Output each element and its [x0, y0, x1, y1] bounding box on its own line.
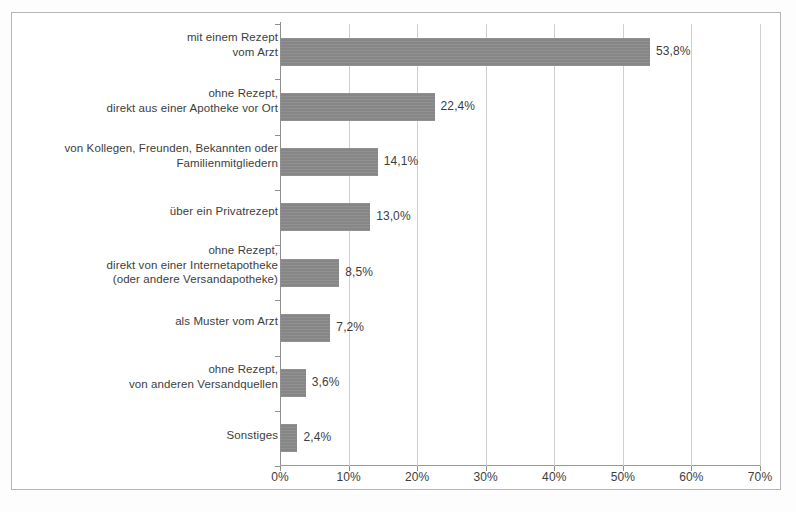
- bar-value-label: 14,1%: [384, 154, 419, 168]
- gridline: [349, 24, 350, 466]
- scanned-page: mit einem Rezept vom Arzt ohne Rezept, d…: [0, 0, 796, 512]
- category-tick: [275, 245, 280, 246]
- category-label: von Kollegen, Freunden, Bekannten oder F…: [6, 141, 278, 170]
- bar: [281, 148, 378, 176]
- plot-area: 53,8%22,4%14,1%13,0%8,5%7,2%3,6%2,4%: [280, 24, 760, 466]
- x-axis-tick-label: 40%: [542, 470, 566, 484]
- category-tick: [275, 135, 280, 136]
- category-tick: [275, 356, 280, 357]
- x-axis-tick-label: 70%: [748, 470, 772, 484]
- x-axis-tick-label: 0%: [271, 470, 289, 484]
- gridline: [486, 24, 487, 466]
- category-tick: [275, 466, 280, 467]
- bar: [281, 203, 370, 231]
- bar-value-label: 13,0%: [376, 209, 411, 223]
- category-label: ohne Rezept, von anderen Versandquellen: [6, 362, 278, 391]
- category-label: ohne Rezept, direkt von einer Internetap…: [6, 243, 278, 287]
- x-axis-line: [280, 465, 761, 466]
- category-tick: [275, 300, 280, 301]
- x-axis-tick-label: 20%: [405, 470, 429, 484]
- bar: [281, 38, 650, 66]
- bar: [281, 259, 339, 287]
- category-label: über ein Privatrezept: [6, 204, 278, 219]
- x-axis-tick-label: 50%: [611, 470, 635, 484]
- bar-chart: mit einem Rezept vom Arzt ohne Rezept, d…: [0, 0, 796, 512]
- gridline: [623, 24, 624, 466]
- category-label: Sonstiges: [6, 428, 278, 443]
- y-axis-line: [280, 22, 281, 466]
- category-tick: [275, 79, 280, 80]
- bar-value-label: 53,8%: [656, 44, 691, 58]
- bar-value-label: 3,6%: [312, 375, 340, 389]
- bar-value-label: 7,2%: [336, 320, 364, 334]
- bar: [281, 93, 435, 121]
- bar-value-label: 2,4%: [303, 430, 331, 444]
- gridline: [417, 24, 418, 466]
- category-label: ohne Rezept, direkt aus einer Apotheke v…: [6, 86, 278, 115]
- bar-value-label: 8,5%: [345, 265, 373, 279]
- category-tick: [275, 411, 280, 412]
- bar: [281, 424, 297, 452]
- gridline: [760, 24, 761, 466]
- x-axis-tick-label: 30%: [474, 470, 498, 484]
- category-label: als Muster vom Arzt: [6, 314, 278, 329]
- category-label: mit einem Rezept vom Arzt: [6, 30, 278, 59]
- category-tick: [275, 190, 280, 191]
- bar: [281, 314, 330, 342]
- bar-value-label: 22,4%: [441, 99, 476, 113]
- x-axis-tick-label: 60%: [679, 470, 703, 484]
- x-axis-tick-label: 10%: [336, 470, 360, 484]
- gridline: [554, 24, 555, 466]
- category-tick: [275, 24, 280, 25]
- bar: [281, 369, 306, 397]
- gridline: [691, 24, 692, 466]
